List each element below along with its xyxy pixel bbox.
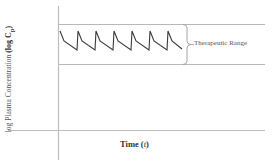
therapeutic-range-label: Therapeutic Range bbox=[194, 39, 247, 47]
pharmacokinetic-chart: log Plasma Concentration (log Cp) Time (… bbox=[0, 0, 275, 165]
x-axis-label: Time (t) bbox=[120, 139, 149, 149]
y-axis-label-subscript: p bbox=[8, 28, 15, 32]
y-axis-label: log Plasma Concentration (log Cp) bbox=[4, 16, 18, 142]
y-axis-label-bold: (log Cp) bbox=[4, 26, 13, 53]
y-axis-label-log: (log C bbox=[4, 32, 13, 53]
x-axis-label-text: Time ( bbox=[120, 139, 144, 149]
x-axis-label-close: ) bbox=[146, 139, 149, 149]
concentration-curve bbox=[60, 31, 182, 50]
therapeutic-range-brace bbox=[183, 25, 191, 65]
y-axis-label-close: ) bbox=[4, 26, 13, 29]
y-axis-label-text: log Plasma Concentration bbox=[4, 53, 13, 132]
